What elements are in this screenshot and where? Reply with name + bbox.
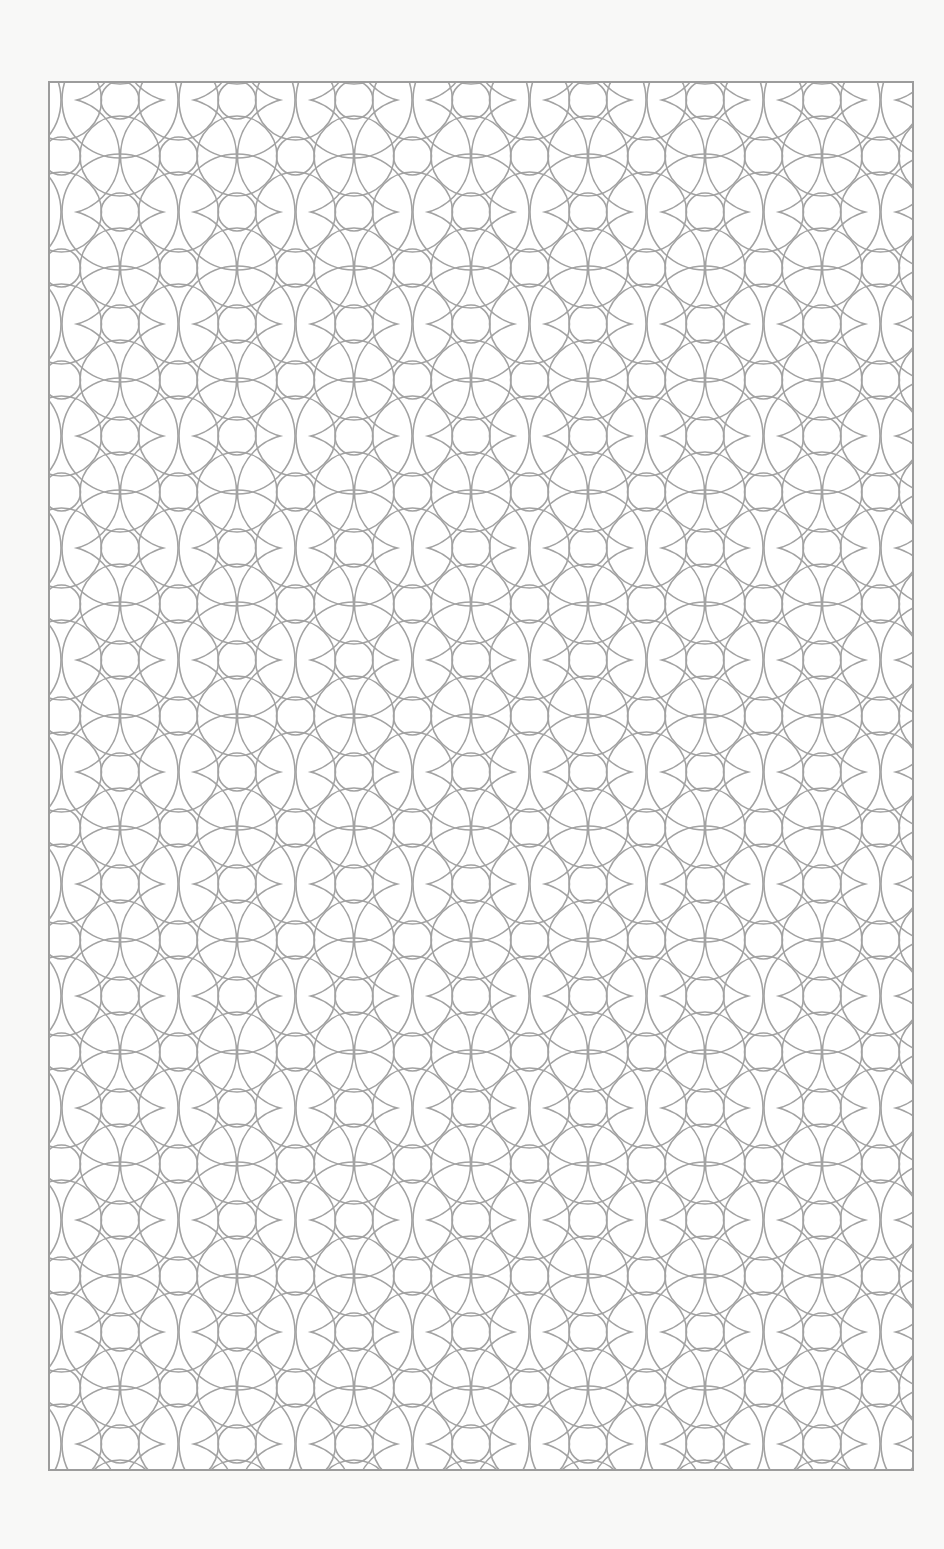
- page: [0, 0, 944, 1549]
- circle-pattern-graphic: [48, 81, 914, 1471]
- patterned-panel: [48, 81, 914, 1471]
